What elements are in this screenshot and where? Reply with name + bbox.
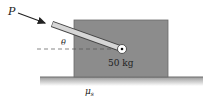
ground	[40, 77, 203, 86]
force-arrow-icon	[18, 13, 45, 23]
angle-label: θ	[61, 38, 66, 47]
diagram-canvas: P θ 50 kg μs	[0, 0, 208, 100]
block-push-diagram: P θ 50 kg μs	[0, 0, 208, 100]
friction-coefficient-label: μs	[85, 86, 94, 97]
mu-subscript: s	[91, 90, 94, 97]
force-label: P	[7, 5, 16, 18]
mass-label: 50 kg	[108, 58, 134, 68]
pivot-pin-icon	[118, 45, 127, 54]
